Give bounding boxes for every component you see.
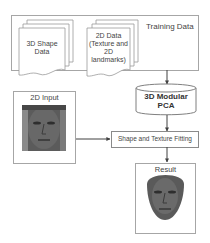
2d-data-label: 2D Data (Texture and 2D landmarks)	[87, 32, 130, 64]
pca-label: 3D Modular PCA	[136, 92, 196, 110]
result-label: Result	[136, 166, 195, 175]
pca-label-line2: PCA	[136, 101, 196, 110]
training-data-label: Training Data	[146, 22, 198, 31]
shape-data-label-line2: Data	[19, 48, 65, 56]
2d-data-label-line1: 2D Data	[87, 32, 130, 40]
input-label: 2D Input	[14, 94, 75, 103]
shape-data-label: 3D Shape Data	[19, 40, 65, 56]
pca-label-line1: 3D Modular	[136, 92, 196, 101]
2d-data-label-line2: (Texture and	[87, 40, 130, 48]
shape-data-label-line1: 3D Shape	[19, 40, 65, 48]
input-face-image	[22, 105, 66, 151]
2d-data-label-line3: 2D	[87, 48, 130, 56]
fitting-label: Shape and Texture Fitting	[112, 135, 198, 142]
2d-data-label-line4: landmarks)	[87, 56, 130, 64]
